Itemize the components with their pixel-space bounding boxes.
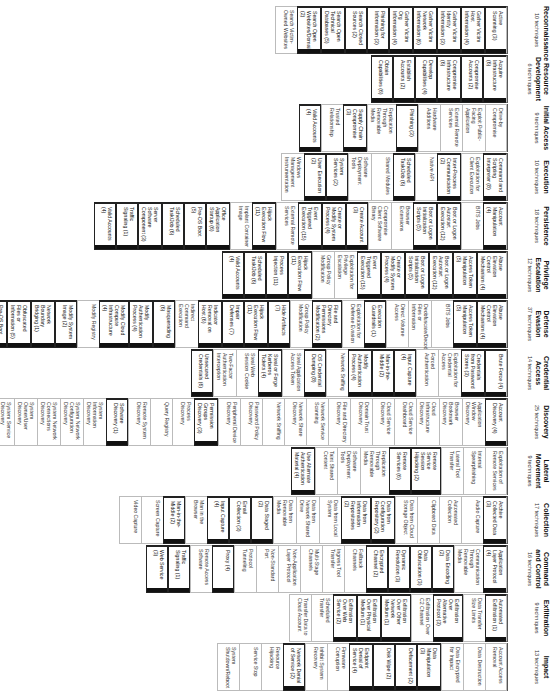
technique-cell-with-subtechniques[interactable]: Create or Modify System Process (4) — [322, 202, 346, 250]
technique-cell[interactable]: Multi-Stage Channels — [300, 545, 322, 593]
tactic-name[interactable]: Reconnaissance — [543, 6, 553, 54]
technique-cell-with-subtechniques[interactable]: Pre-OS Boot (5) — [184, 202, 206, 250]
technique-cell-with-subtechniques[interactable]: Exfiltration Over Alternative Protocol (… — [433, 594, 463, 642]
technique-cell-with-subtechniques[interactable]: Modify Cloud Compute Infrastructure (4) — [99, 300, 129, 348]
tactic-header[interactable]: Reconnaissance10 techniques — [508, 6, 552, 54]
technique-cell-with-subtechniques[interactable]: Data Encoding (2) — [432, 545, 454, 593]
tactic-header[interactable]: Exfiltration9 techniques — [508, 594, 552, 642]
technique-cell[interactable]: System Information Discovery — [83, 398, 106, 446]
tactic-name[interactable]: Execution — [543, 153, 553, 201]
technique-cell[interactable]: System Network Configuration Discovery — [60, 398, 83, 446]
tactic-name[interactable]: Initial Access — [543, 104, 553, 152]
technique-cell-with-subtechniques[interactable]: Inter-Process Communication (2) — [437, 153, 461, 201]
technique-cell[interactable]: Internal Spearphishing — [463, 447, 485, 495]
technique-cell-with-subtechniques[interactable]: Remote Services (6) — [389, 447, 411, 495]
technique-cell-with-subtechniques[interactable]: Create Account (3) — [346, 202, 368, 250]
technique-cell-with-subtechniques[interactable]: Archive Collected Data (3) — [483, 496, 507, 544]
tactic-header[interactable]: Defense Evasion37 techniques — [508, 300, 552, 348]
technique-cell-with-subtechniques[interactable]: Search Open Websites/Domains (2) — [297, 6, 321, 54]
technique-cell[interactable]: Data Encrypted for Impact — [441, 643, 463, 691]
technique-cell-with-subtechniques[interactable]: Process Injection (11) — [266, 251, 288, 299]
tactic-name[interactable]: Exfiltration — [543, 594, 553, 642]
technique-cell-with-subtechniques[interactable]: Exfiltration Over Other Network Medium (… — [381, 594, 411, 642]
technique-cell[interactable]: Software Deployment Tools — [337, 447, 360, 495]
tactic-name[interactable]: Command and Control — [535, 545, 552, 593]
tactic-header[interactable]: Discovery25 techniques — [508, 398, 552, 446]
technique-cell[interactable]: Audio Capture — [461, 496, 483, 544]
technique-cell[interactable]: Firmware Corruption — [327, 643, 349, 691]
technique-cell[interactable]: Group Policy Modification — [312, 251, 334, 299]
technique-cell[interactable]: Data from Removable Media — [273, 496, 296, 544]
technique-cell-with-subtechniques[interactable]: Abuse Elevation Control Mechanism (4) — [477, 300, 507, 348]
technique-cell[interactable]: Account Access Removal — [485, 643, 507, 691]
technique-cell[interactable]: System Network Connections Discovery — [37, 398, 60, 446]
technique-cell[interactable]: Modify Registry — [77, 300, 99, 348]
technique-cell[interactable]: Search Victim-Owned Websites — [275, 6, 297, 54]
tactic-header[interactable]: Collection17 techniques — [508, 496, 552, 544]
technique-cell[interactable]: Replication Through Removable Media — [360, 447, 389, 495]
tactic-name[interactable]: Resource Development — [535, 55, 552, 103]
technique-cell-with-subtechniques[interactable]: Compromise Accounts (2) — [461, 55, 483, 103]
technique-cell-with-subtechniques[interactable]: Proxy (4) — [212, 545, 234, 593]
technique-cell[interactable]: Domain Trust Discovery — [350, 398, 372, 446]
technique-cell-with-subtechniques[interactable]: Command and Scripting Interpreter (8) — [483, 153, 507, 201]
technique-cell-with-subtechniques[interactable]: Input Capture (4) — [394, 349, 416, 397]
technique-cell-with-subtechniques[interactable]: Phishing for Information (3) — [367, 6, 389, 54]
technique-cell-with-subtechniques[interactable]: Dynamic Resolution (3) — [388, 545, 410, 593]
technique-cell[interactable]: Remote Access Software — [190, 545, 212, 593]
technique-cell[interactable]: Peripheral Device Discovery — [218, 398, 240, 446]
technique-cell[interactable]: Video Capture — [119, 496, 141, 544]
technique-cell[interactable]: Windows Management Instrumentation — [281, 153, 304, 201]
technique-cell[interactable]: BITS Jobs — [431, 300, 453, 348]
technique-cell-with-subtechniques[interactable]: Active Scanning (3) — [485, 6, 507, 54]
tactic-header[interactable]: Impact13 techniques — [508, 643, 552, 691]
technique-cell[interactable]: Network Share Discovery — [284, 398, 306, 446]
technique-cell[interactable]: Password Policy Discovery — [240, 398, 262, 446]
technique-cell-with-subtechniques[interactable]: Gather Victim Network Information (6) — [413, 6, 437, 54]
technique-cell-with-subtechniques[interactable]: Pre-OS Boot (5) — [0, 300, 7, 348]
technique-cell-with-subtechniques[interactable]: Phishing (3) — [396, 104, 418, 152]
technique-cell-with-subtechniques[interactable]: Event Triggered Execution (15) — [357, 251, 381, 299]
technique-cell[interactable]: Shared Modules — [371, 153, 393, 201]
technique-cell-with-subtechniques[interactable]: Permission Groups Discovery (3) — [194, 398, 218, 446]
technique-cell-with-subtechniques[interactable]: Unsecured Credentials (6) — [191, 349, 213, 397]
technique-cell-with-subtechniques[interactable]: Access Token Manipulation (5) — [453, 300, 477, 348]
technique-cell[interactable]: Clipboard Data — [417, 496, 439, 544]
technique-cell-with-subtechniques[interactable]: Network Denial of Service (2) — [283, 643, 305, 691]
technique-cell[interactable]: Browser Bookmark Discovery — [439, 398, 462, 446]
technique-cell[interactable]: Application Window Discovery — [462, 398, 485, 446]
technique-cell-with-subtechniques[interactable]: Gather Victim Host Information (4) — [461, 6, 485, 54]
technique-cell-with-subtechniques[interactable]: Data Manipulation (3) — [417, 643, 441, 691]
technique-cell[interactable]: Network Sniffing — [262, 398, 284, 446]
technique-cell-with-subtechniques[interactable]: Hijack Execution Flow (11) — [252, 202, 276, 250]
tactic-header[interactable]: Execution10 techniques — [508, 153, 552, 201]
technique-cell-with-subtechniques[interactable]: OS Credential Dumping (8) — [304, 349, 326, 397]
technique-cell-with-subtechniques[interactable]: Event Triggered Execution (15) — [298, 202, 322, 250]
technique-cell[interactable]: Network Service Scanning — [306, 398, 328, 446]
technique-cell-with-subtechniques[interactable]: Data Staged (2) — [251, 496, 273, 544]
technique-cell[interactable]: Cloud Service Dashboard — [394, 398, 416, 446]
technique-cell[interactable]: Fallback Channels — [344, 545, 366, 593]
technique-cell-with-subtechniques[interactable]: Web Service (3) — [146, 545, 168, 593]
technique-cell-with-subtechniques[interactable]: Exfiltration Over Web Service (2) — [333, 594, 357, 642]
technique-cell-with-subtechniques[interactable]: Account Manipulation (4) — [483, 202, 507, 250]
technique-cell[interactable]: Scheduled Transfer — [311, 594, 333, 642]
technique-cell[interactable]: Lateral Tool Transfer — [441, 447, 463, 495]
technique-cell[interactable]: Query Registry — [150, 398, 172, 446]
technique-cell-with-subtechniques[interactable]: Steal or Forge Kerberos Tickets (4) — [258, 349, 282, 397]
technique-cell-with-subtechniques[interactable]: Server Software Component (3) — [138, 202, 162, 250]
technique-cell[interactable]: Exploitation of Remote Services — [485, 447, 507, 495]
technique-cell[interactable]: File and Directory Discovery — [328, 398, 350, 446]
technique-cell-with-subtechniques[interactable]: Scheduled Task/Job (6) — [162, 202, 184, 250]
technique-cell-with-subtechniques[interactable]: Office Application Startup (6) — [206, 202, 230, 250]
technique-cell-with-subtechniques[interactable]: Remote Service Session Hijacking (2) — [411, 447, 441, 495]
technique-cell[interactable]: Steal Application Access Token — [282, 349, 304, 397]
technique-cell[interactable]: Screen Capture — [141, 496, 163, 544]
technique-cell-with-subtechniques[interactable]: Scheduled Task/Job (6) — [393, 153, 415, 201]
technique-cell[interactable]: Inhibit System Recovery — [305, 643, 327, 691]
technique-cell[interactable]: Remote System Discovery — [128, 398, 150, 446]
technique-cell-with-subtechniques[interactable]: Boot or Logon Initialization Scripts (5) — [405, 251, 429, 299]
technique-cell-with-subtechniques[interactable]: Man-in-the-Middle (2) — [163, 496, 185, 544]
technique-cell[interactable]: Protocol Tunneling — [234, 545, 256, 593]
technique-cell-with-subtechniques[interactable]: User Execution (2) — [304, 153, 326, 201]
